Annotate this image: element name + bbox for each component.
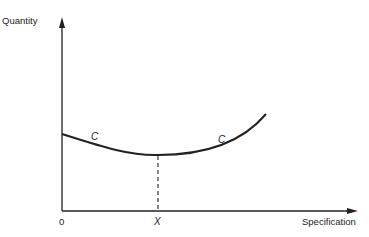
curve-label-left: C	[91, 131, 99, 142]
x-axis-arrow-icon	[347, 208, 358, 214]
y-axis-label: Quantity	[2, 15, 38, 26]
origin-label: 0	[59, 216, 64, 227]
y-axis-arrow-icon	[59, 17, 65, 28]
curve-label-right: C	[218, 134, 226, 145]
x-marker-label: X	[153, 216, 161, 227]
diagram-canvas: Quantity Specification 0 X C C	[0, 0, 369, 237]
x-axis-label: Specification	[302, 216, 356, 227]
